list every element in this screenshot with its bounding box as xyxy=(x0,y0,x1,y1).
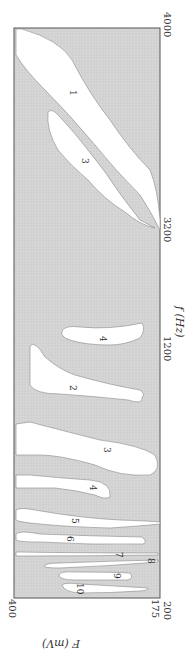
x-tick-1200: 1200 xyxy=(162,336,173,361)
y-tick-400: 400 xyxy=(7,599,18,618)
region-label-6: 6 xyxy=(65,536,75,542)
x-tick-3200: 3200 xyxy=(162,217,173,242)
region-label-3-lower: 3 xyxy=(102,447,112,453)
y-tick-175: 175 xyxy=(150,599,161,618)
phase-diagram: 1 3 2 4 3 4 5 6 7 8 9 10 4000 3200 1200 … xyxy=(0,0,194,664)
region-label-10: 10 xyxy=(75,583,85,595)
x-tick-4000: 4000 xyxy=(162,12,173,37)
region-label-3-upper: 3 xyxy=(80,158,90,164)
region-label-8: 8 xyxy=(146,558,156,564)
region-label-5: 5 xyxy=(70,518,80,524)
x-axis-label: f (Hz) xyxy=(173,305,186,338)
y-axis-label: F (mV) xyxy=(42,637,81,650)
region-label-4-mid: 4 xyxy=(98,336,108,342)
region-label-1: 1 xyxy=(68,90,78,96)
region-label-2: 2 xyxy=(68,385,78,391)
x-tick-200: 200 xyxy=(162,601,173,620)
region-label-9: 9 xyxy=(112,573,122,579)
region-label-7: 7 xyxy=(114,552,124,558)
region-label-4-lower: 4 xyxy=(88,485,98,491)
